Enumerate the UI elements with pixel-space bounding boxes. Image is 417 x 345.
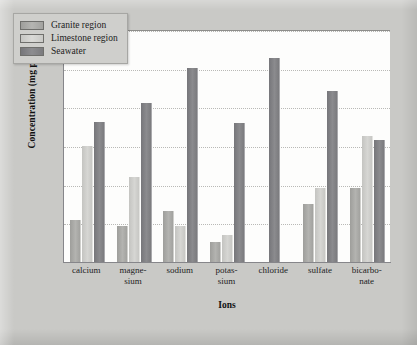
bar-sodium-seawater — [187, 68, 198, 262]
x-axis-line — [63, 262, 391, 263]
bar-potassium-limestone — [222, 235, 233, 262]
bar-group-sodium — [157, 31, 204, 262]
legend-swatch-granite — [20, 21, 44, 30]
x-axis-tick-label-sulfate: sulfate — [297, 265, 344, 276]
bar-group-calcium — [64, 31, 111, 262]
bar-potassium-seawater — [234, 123, 245, 262]
chart-legend: Granite region Limestone region Seawater — [13, 13, 128, 64]
figure-container: 10510410310210110010−1 Concentration (mg… — [0, 0, 417, 345]
bar-calcium-granite — [70, 220, 81, 262]
legend-item-granite: Granite region — [20, 19, 118, 32]
bar-bicarbonate-limestone — [362, 136, 373, 262]
x-label-line2: nate — [343, 276, 390, 287]
bar-sodium-granite — [163, 211, 174, 262]
x-label-line2: sium — [203, 276, 250, 287]
x-label-line1: chloride — [258, 265, 288, 275]
bar-bicarbonate-seawater — [374, 140, 385, 262]
x-axis-tick-label-calcium: calcium — [63, 265, 110, 276]
y-axis-line — [63, 30, 64, 263]
x-label-line1: calcium — [72, 265, 101, 275]
x-axis-tick-label-potassium: potas-sium — [203, 265, 250, 286]
bar-calcium-seawater — [94, 122, 105, 262]
bar-group-bicarbonate — [344, 31, 391, 262]
bar-bicarbonate-granite — [350, 188, 361, 262]
x-axis-tick-labels: calciummagne-siumsodiumpotas-siumchlorid… — [63, 265, 391, 299]
bar-sulfate-granite — [303, 204, 314, 262]
bar-sulfate-seawater — [327, 91, 338, 262]
x-label-line1: magne- — [120, 265, 147, 275]
bar-group-potassium — [204, 31, 251, 262]
legend-item-limestone: Limestone region — [20, 32, 118, 45]
x-axis-tick-label-chloride: chloride — [250, 265, 297, 276]
legend-item-seawater: Seawater — [20, 45, 118, 58]
bar-sulfate-limestone — [315, 188, 326, 262]
x-axis-tick-label-sodium: sodium — [156, 265, 203, 276]
bar-potassium-granite — [210, 242, 221, 262]
bar-calcium-limestone — [82, 146, 93, 262]
bar-magnesium-limestone — [129, 177, 140, 262]
plot-area — [63, 30, 390, 262]
x-axis-title: Ions — [63, 300, 391, 310]
x-label-line1: potas- — [215, 265, 237, 275]
bar-group-sulfate — [298, 31, 345, 262]
legend-swatch-seawater — [20, 47, 44, 56]
legend-swatch-limestone — [20, 34, 44, 43]
bar-magnesium-granite — [117, 226, 128, 262]
x-axis-tick-label-magnesium: magne-sium — [110, 265, 157, 286]
bar-magnesium-seawater — [141, 103, 152, 262]
bar-group-chloride — [251, 31, 298, 262]
bar-sodium-limestone — [175, 226, 186, 262]
legend-label-limestone: Limestone region — [51, 34, 118, 44]
x-axis-tick-label-bicarbonate: bicarbo-nate — [343, 265, 390, 286]
bar-chloride-seawater — [269, 58, 280, 262]
x-label-line1: sodium — [167, 265, 194, 275]
bar-group-magnesium — [111, 31, 158, 262]
legend-label-granite: Granite region — [51, 21, 106, 31]
legend-label-seawater: Seawater — [51, 47, 86, 57]
x-label-line2: sium — [110, 276, 157, 287]
x-label-line1: bicarbo- — [352, 265, 382, 275]
x-label-line1: sulfate — [308, 265, 332, 275]
